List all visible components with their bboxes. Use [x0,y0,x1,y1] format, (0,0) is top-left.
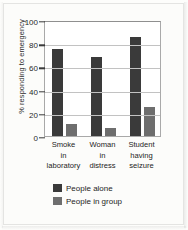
x-axis-category-label: Womanindistress [83,140,122,172]
figure-container: % responding to emergency 020406080100 S… [0,0,188,230]
x-axis-labels: SmokeinlaboratoryWomanindistressStudenth… [44,140,161,174]
bar-group [84,22,123,136]
legend-item: People alone [53,182,173,194]
bars-layer [45,22,160,136]
gridline [45,45,160,46]
bar [105,128,116,136]
bar [130,37,141,136]
bar-group [123,22,162,136]
page-edge-shadow-right [184,2,188,228]
y-axis-tick-label: 40 [29,87,45,96]
x-axis-label-line: laboratory [44,161,83,172]
legend-label: People in group [66,197,122,206]
y-axis-tick-label: 20 [29,110,45,119]
x-axis-category-label: Studenthavingseizure [122,140,161,172]
x-axis-label-line: Woman [83,140,122,151]
page-edge-shadow-bottom [2,226,186,230]
x-axis-label-line: Smoke [44,140,83,151]
x-axis-label-line: seizure [122,161,161,172]
x-axis-category-label: Smokeinlaboratory [44,140,83,172]
bar [66,124,77,136]
legend-label: People alone [66,184,113,193]
y-axis-title: % responding to emergency [17,12,26,122]
gridline [45,68,160,69]
legend-swatch [53,184,62,192]
y-axis-tick-label: 80 [29,41,45,50]
x-axis-label-line: distress [83,161,122,172]
legend-swatch [53,197,62,205]
page-edge-shadow-left [0,2,3,228]
x-axis-label-line: having [122,151,161,162]
bar-group [45,22,84,136]
x-axis-label-line: in [83,151,122,162]
bar [144,107,155,136]
gridline [45,92,160,93]
y-axis-tick-label: 60 [29,64,45,73]
legend-item: People in group [53,195,173,207]
gridline [45,115,160,116]
plot-area: 020406080100 [44,21,161,137]
y-axis-tick-label: 100 [25,18,45,27]
x-axis-label-line: in [44,151,83,162]
x-axis-label-line: Student [122,140,161,151]
chart-legend: People alonePeople in group [53,182,173,208]
